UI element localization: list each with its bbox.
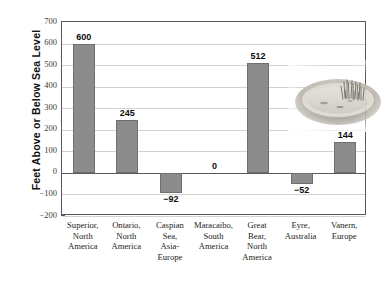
x-category-label-line: America [228, 252, 286, 263]
gridline [62, 44, 365, 45]
x-category-label-line: Vanern, [315, 220, 373, 231]
bar-value-label: −52 [279, 186, 325, 195]
bar-value-label: −92 [148, 195, 194, 204]
x-category-label-line: Europe [315, 231, 373, 242]
x-category-label: Vanern,Europe [315, 220, 373, 241]
bar-value-label: 512 [235, 52, 281, 61]
bar [116, 120, 138, 173]
y-tick-label: −100 [23, 189, 57, 198]
y-tick-label: 200 [23, 124, 57, 133]
bar-chart-figure: Feet Above or Below Sea Level 7006005004… [0, 0, 391, 282]
bar [334, 142, 356, 173]
bar-value-label: 245 [104, 109, 150, 118]
bar-value-label: 600 [61, 33, 107, 42]
bar-value-label: 144 [322, 131, 368, 140]
gridline [62, 216, 365, 217]
y-tick-label: 100 [23, 146, 57, 155]
bar [247, 63, 269, 173]
bar [160, 173, 182, 193]
lake-basin-photo [288, 60, 388, 132]
y-tick-label: 0 [23, 167, 57, 176]
bar [73, 44, 95, 173]
y-tick-label: 300 [23, 103, 57, 112]
gridline [62, 151, 365, 152]
y-tick-label: 500 [23, 60, 57, 69]
y-tick-label: 400 [23, 81, 57, 90]
y-tick-label: 600 [23, 38, 57, 47]
y-tick-label: 700 [23, 17, 57, 26]
x-category-label-line: North [228, 241, 286, 252]
y-tick-label: −200 [23, 211, 57, 220]
plot-area: 600245−920512−52144 [61, 21, 366, 215]
x-category-label-line: Europe [141, 252, 199, 263]
zero-line [62, 173, 365, 174]
bar [291, 173, 313, 184]
bar-value-label: 0 [192, 162, 238, 171]
